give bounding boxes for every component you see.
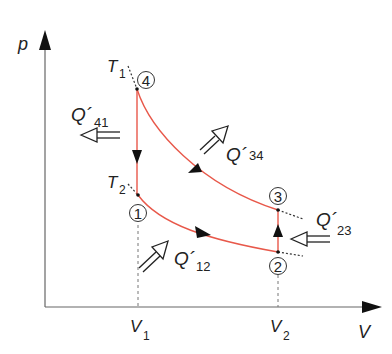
isotherm-t2: T xyxy=(107,173,119,192)
arrow-41-icon xyxy=(132,150,142,164)
state-2: 2 xyxy=(270,258,287,276)
heat-arrow-34-icon xyxy=(200,126,228,154)
svg-text:34: 34 xyxy=(249,148,263,163)
arrow-34-icon xyxy=(188,163,202,173)
y-axis-label: p xyxy=(17,34,28,54)
heat-label-41: Q´ xyxy=(71,104,93,125)
svg-text:1: 1 xyxy=(134,205,142,222)
y-axis xyxy=(39,30,51,307)
svg-text:4: 4 xyxy=(142,72,150,89)
arrow-23-icon xyxy=(273,224,283,237)
x-axis xyxy=(45,301,382,313)
tick-v1: V xyxy=(130,317,143,336)
svg-text:23: 23 xyxy=(337,223,351,238)
x-axis-label: V xyxy=(358,322,372,342)
pv-diagram: p V V 1 V 2 4 1 3 2 T 1 T xyxy=(0,0,392,354)
svg-text:2: 2 xyxy=(283,329,290,343)
state-3: 3 xyxy=(270,188,287,206)
svg-text:2: 2 xyxy=(274,258,282,275)
cycle-path xyxy=(137,89,278,252)
heat-arrow-41-icon xyxy=(81,128,120,142)
tick-v2: V xyxy=(270,317,283,336)
heat-arrow-12-icon xyxy=(139,241,168,272)
heat-label-34: Q´ xyxy=(226,144,248,165)
svg-text:2: 2 xyxy=(119,183,126,197)
svg-text:41: 41 xyxy=(94,115,108,130)
heat-label-23: Q´ xyxy=(316,209,338,230)
svg-text:12: 12 xyxy=(196,259,210,274)
heat-arrow-23-icon xyxy=(291,232,330,246)
svg-text:1: 1 xyxy=(143,329,150,343)
isotherm-t1: T xyxy=(107,57,119,76)
svg-text:1: 1 xyxy=(119,67,126,81)
state-4: 4 xyxy=(138,72,155,90)
heat-label-12: Q´ xyxy=(174,248,196,269)
state-1: 1 xyxy=(130,205,147,223)
svg-text:3: 3 xyxy=(274,188,282,205)
